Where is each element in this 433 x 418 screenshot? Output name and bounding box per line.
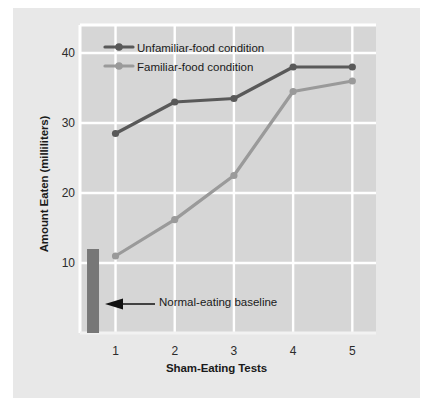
legend-label-unfamiliar-food: Unfamiliar-food condition xyxy=(137,42,264,54)
y-tick-label-10: 10 xyxy=(29,256,75,270)
x-tick-label-2: 2 xyxy=(155,344,195,358)
x-axis-title: Sham-Eating Tests xyxy=(13,362,420,374)
y-axis-title: Amount Eaten (milliliters) xyxy=(38,74,50,294)
x-tick-label-4: 4 xyxy=(273,344,313,358)
y-tick-label-20: 20 xyxy=(29,186,75,200)
y-tick-label-40: 40 xyxy=(29,46,75,60)
figure-card: 40302010 12345 Amount Eaten (milliliters… xyxy=(13,8,420,398)
legend-label-familiar-food: Familiar-food condition xyxy=(137,61,253,73)
baseline-bar-layer xyxy=(87,249,99,333)
annotation-label-normal-eating-baseline: Normal-eating baseline xyxy=(159,296,277,308)
x-tick-label-3: 3 xyxy=(214,344,254,358)
y-tick-label-30: 30 xyxy=(29,116,75,130)
x-tick-label-5: 5 xyxy=(332,344,372,358)
chart-canvas: 40302010 12345 Amount Eaten (milliliters… xyxy=(13,8,420,398)
x-tick-label-1: 1 xyxy=(96,344,136,358)
